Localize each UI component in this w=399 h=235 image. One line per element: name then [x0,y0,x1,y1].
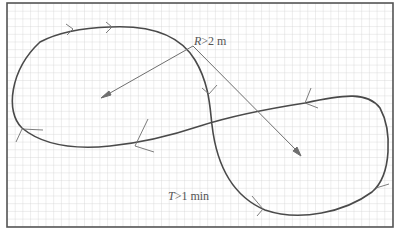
figure-eight-diagram: R>2 m T>1 min [0,0,399,235]
period-label: T>1 min [168,189,209,204]
radius-label: R>2 m [194,34,226,49]
